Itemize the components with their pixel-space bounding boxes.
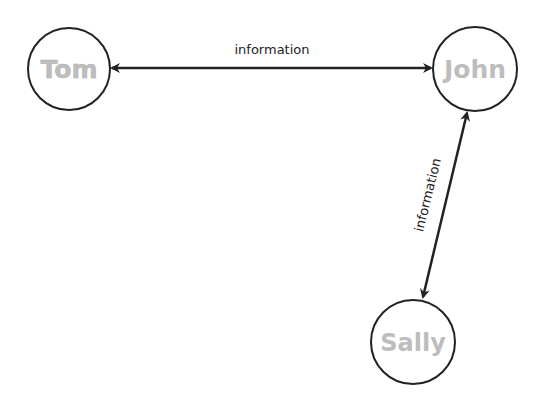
edge-john-sally: information — [411, 113, 467, 297]
edge-tom-john: information — [112, 42, 431, 68]
edge-label-john-sally: information — [411, 157, 444, 233]
node-sally[interactable]: Sally — [371, 300, 455, 384]
node-label-sally: Sally — [380, 329, 446, 357]
diagram-canvas: information information Tom John Sally — [0, 0, 542, 402]
node-label-john: John — [442, 55, 506, 84]
node-label-tom: Tom — [41, 55, 98, 84]
node-tom[interactable]: Tom — [28, 28, 110, 110]
node-john[interactable]: John — [433, 27, 517, 111]
edge-label-tom-john: information — [234, 42, 309, 57]
